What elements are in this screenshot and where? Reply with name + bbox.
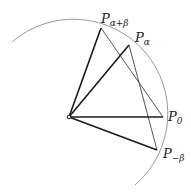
label-P-alpha-plus-beta: Pα+β	[100, 11, 129, 28]
label-P-alpha: Pα	[134, 30, 150, 47]
chord-Palphabeta-P0	[101, 28, 163, 117]
origin-point	[67, 115, 71, 119]
unit-circle-diagram: Pα+β Pα P0 P−β	[0, 0, 191, 193]
radius-to-Palphabeta	[69, 28, 101, 117]
label-P-minus-beta: P−β	[162, 146, 185, 163]
diagram-canvas: Pα+β Pα P0 P−β	[0, 0, 191, 193]
chord-Palpha-Pminusbeta	[129, 45, 157, 150]
radius-to-Pminusbeta	[69, 117, 157, 150]
label-P-0: P0	[167, 109, 183, 126]
radius-to-Palpha	[69, 45, 129, 117]
